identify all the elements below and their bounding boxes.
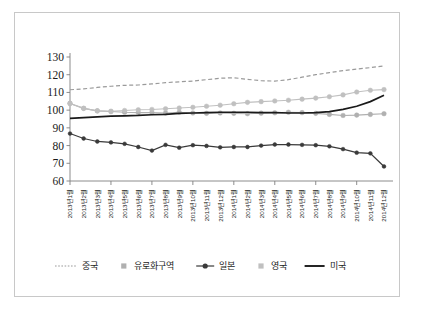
x-tick-label: 2013년12월: [217, 189, 225, 222]
series-line: [70, 103, 384, 115]
series-marker: [355, 151, 359, 155]
series-1: [70, 66, 384, 90]
series-marker: [327, 112, 332, 117]
x-tick-label: 2013년5월: [121, 189, 129, 218]
series-marker: [341, 93, 346, 98]
series-marker: [150, 149, 154, 153]
series-line: [70, 90, 384, 112]
series-marker: [245, 100, 250, 105]
chart-plot-wrapper: 607080901001101201302013년1월2013년2월2013년3…: [15, 13, 401, 298]
series-marker: [204, 104, 209, 109]
x-tick-label: 2013년8월: [162, 189, 170, 218]
series-line: [70, 66, 384, 90]
series-marker: [313, 96, 318, 101]
y-tick-label: 110: [47, 86, 64, 98]
series-marker: [82, 137, 86, 141]
legend-item-3[interactable]: 일본: [196, 261, 235, 271]
series-marker: [95, 140, 99, 144]
series-marker: [81, 106, 86, 111]
series-marker: [150, 107, 155, 112]
series-marker: [163, 106, 168, 111]
legend-label: 영국: [271, 261, 287, 271]
series-marker: [368, 112, 373, 117]
legend-label: 중국: [82, 261, 98, 271]
series-marker: [368, 151, 372, 155]
x-tick-label: 2013년7월: [148, 189, 156, 218]
x-tick-label: 2013년4월: [107, 189, 115, 218]
series-marker: [382, 111, 387, 116]
legend-item-5[interactable]: 미국: [305, 261, 346, 271]
line-chart: 607080901001101201302013년1월2013년2월2013년3…: [15, 13, 401, 298]
series-marker: [341, 147, 345, 151]
legend-item-4[interactable]: 영국: [258, 261, 287, 271]
x-tick-label: 2014년6월: [298, 189, 306, 218]
x-tick-label: 2013년2월: [80, 189, 88, 218]
series-marker: [109, 109, 114, 114]
legend-label: 미국: [330, 261, 346, 271]
x-tick-label: 2014년12월: [380, 189, 388, 222]
series-marker: [273, 143, 277, 147]
series-marker: [300, 97, 305, 102]
y-tick-label: 60: [53, 175, 65, 187]
series-marker: [259, 144, 263, 148]
y-tick-label: 100: [47, 104, 65, 116]
series-marker: [382, 165, 386, 169]
legend-label: 일본: [219, 261, 235, 271]
legend-swatch-marker: [258, 263, 263, 268]
legend-swatch-marker: [203, 263, 208, 268]
series-marker: [382, 87, 387, 92]
x-tick-label: 2014년2월: [244, 189, 252, 218]
series-marker: [218, 145, 222, 149]
series-marker: [354, 113, 359, 118]
series-marker: [164, 143, 168, 147]
x-tick-label: 2013년1월: [66, 189, 74, 218]
series-marker: [218, 103, 223, 108]
series-marker: [68, 132, 72, 136]
series-marker: [286, 98, 291, 103]
x-tick-label: 2013년3월: [94, 189, 102, 218]
series-marker: [109, 140, 113, 144]
series-marker: [177, 146, 181, 150]
series-marker: [341, 113, 346, 118]
legend-swatch-marker: [121, 263, 126, 268]
series-marker: [232, 145, 236, 149]
x-tick-label: 2014년8월: [326, 189, 334, 218]
series-marker: [68, 101, 73, 106]
legend-label: 유로화구역: [134, 261, 174, 271]
x-tick-label: 2013년11월: [203, 189, 211, 221]
x-tick-label: 2014년11월: [367, 189, 375, 221]
x-tick-label: 2013년6월: [135, 189, 143, 218]
series-3: [68, 132, 386, 169]
series-marker: [287, 143, 291, 147]
series-marker: [354, 90, 359, 95]
x-tick-label: 2013년9월: [176, 189, 184, 218]
x-tick-label: 2014년1월: [230, 189, 238, 218]
x-tick-label: 2014년3월: [258, 189, 266, 218]
series-marker: [95, 109, 100, 114]
y-tick-label: 90: [53, 122, 65, 134]
series-marker: [136, 107, 141, 112]
series-marker: [300, 143, 304, 147]
series-marker: [191, 143, 195, 147]
series-marker: [177, 106, 182, 111]
x-tick-label: 2014년5월: [285, 189, 293, 218]
x-tick-label: 2014년9월: [339, 189, 347, 218]
y-tick-label: 70: [53, 157, 65, 169]
legend-item-1[interactable]: 중국: [55, 261, 98, 271]
series-marker: [259, 99, 264, 104]
y-tick-label: 130: [47, 51, 65, 63]
x-tick-label: 2013년10월: [189, 189, 197, 222]
legend-item-2[interactable]: 유로화구역: [121, 261, 174, 271]
series-marker: [191, 105, 196, 110]
x-tick-label: 2014년10월: [353, 189, 361, 222]
series-marker: [368, 88, 373, 93]
x-tick-label: 2014년7월: [312, 189, 320, 218]
series-marker: [123, 142, 127, 146]
chart-figure-frame: 607080901001101201302013년1월2013년2월2013년3…: [14, 12, 400, 297]
y-tick-label: 120: [47, 69, 65, 81]
series-marker: [327, 144, 331, 148]
chart-legend: 중국유로화구역일본영국미국: [55, 261, 346, 271]
y-tick-label: 80: [53, 140, 65, 152]
series-marker: [136, 145, 140, 149]
x-tick-label: 2014년4월: [271, 189, 279, 218]
